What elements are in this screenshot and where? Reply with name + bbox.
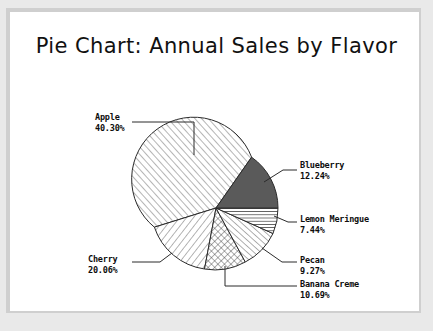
leader-line-cherry bbox=[132, 253, 172, 262]
pie-label-cherry: Cherry 20.06% bbox=[88, 254, 118, 276]
leader-line-pecan bbox=[262, 248, 297, 262]
pie-label-lemon-meringue-name: Lemon Meringue bbox=[300, 214, 369, 224]
pie-label-pecan-percent: 9.27% bbox=[300, 266, 325, 277]
pie-label-pecan-name: Pecan bbox=[300, 255, 325, 265]
pie-label-apple-percent: 40.30% bbox=[95, 123, 125, 134]
pie-label-lemon-meringue-percent: 7.44% bbox=[300, 225, 369, 236]
pie-chart-plot bbox=[0, 0, 433, 331]
pie-label-cherry-name: Cherry bbox=[88, 254, 118, 264]
pie-label-cherry-percent: 20.06% bbox=[88, 265, 118, 276]
pie-label-banana-creme-percent: 10.69% bbox=[300, 290, 359, 301]
pie-label-apple-name: Apple bbox=[95, 112, 120, 122]
pie-label-pecan: Pecan 9.27% bbox=[300, 255, 325, 277]
pie-label-banana-creme: Banana Creme 10.69% bbox=[300, 279, 359, 301]
pie-label-lemon-meringue: Lemon Meringue 7.44% bbox=[300, 214, 369, 236]
pie-label-blueberry: Blueberry 12.24% bbox=[300, 160, 344, 182]
leader-line-banana-creme bbox=[225, 266, 297, 286]
screenshot-canvas: Pie Chart: Annual Sales by Flavor bbox=[0, 0, 433, 331]
pie-label-banana-creme-name: Banana Creme bbox=[300, 279, 359, 289]
pie-label-apple: Apple 40.30% bbox=[95, 112, 125, 134]
pie-label-blueberry-percent: 12.24% bbox=[300, 171, 344, 182]
pie-label-blueberry-name: Blueberry bbox=[300, 160, 344, 170]
